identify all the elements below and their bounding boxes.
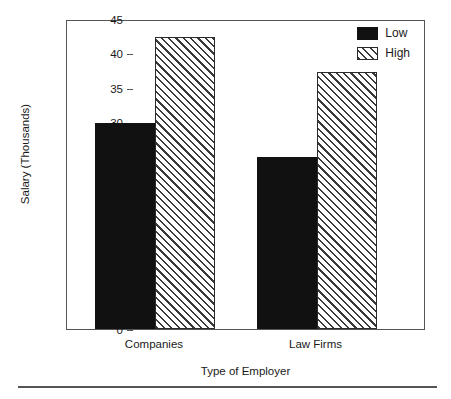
- legend-label-low: Low: [385, 27, 407, 40]
- x-axis-label-law-firms: Law Firms: [236, 338, 396, 350]
- bar-companies-high: [155, 37, 215, 329]
- y-axis-tick-mark: [127, 89, 133, 90]
- y-axis-title: Salary (Thousands): [19, 69, 31, 239]
- legend-swatch-high-icon: [357, 47, 378, 60]
- y-axis-tick-label: 45: [110, 13, 123, 28]
- bar-law-firms-high: [317, 72, 377, 329]
- footer-divider: [18, 386, 437, 388]
- legend-item-high: High: [357, 47, 410, 60]
- y-axis-tick-mark: [127, 20, 133, 21]
- legend: Low High: [357, 27, 410, 60]
- bar-law-firms-low: [257, 157, 317, 329]
- y-axis-tick-label: 40: [110, 47, 123, 62]
- legend-label-high: High: [385, 47, 410, 60]
- legend-swatch-low-icon: [357, 27, 378, 40]
- x-axis-title: Type of Employer: [66, 365, 425, 377]
- bar-chart: Salary (Thousands) 051015202530354045 Lo…: [0, 0, 451, 399]
- y-axis-tick-mark: [127, 330, 133, 331]
- y-axis-tick-mark: [127, 54, 133, 55]
- bar-companies-low: [95, 123, 155, 329]
- legend-item-low: Low: [357, 27, 410, 40]
- plot-area: 051015202530354045 Low High: [66, 20, 425, 330]
- x-axis-label-companies: Companies: [74, 338, 234, 350]
- y-axis-tick-label: 35: [110, 82, 123, 97]
